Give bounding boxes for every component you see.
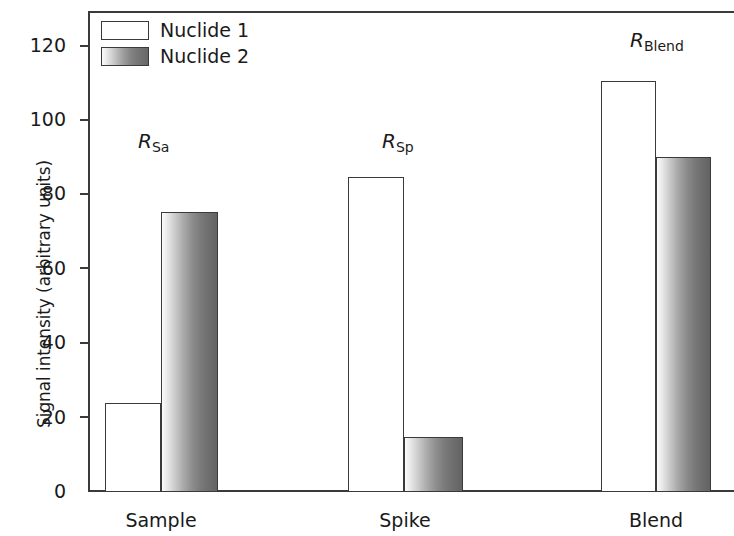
legend-swatch-nuclide2-icon: [101, 47, 149, 66]
annotation-r-sa-symbol: R: [138, 129, 152, 153]
annotation-r-sp-subscript: Sp: [396, 139, 414, 155]
legend-label-nuclide1: Nuclide 1: [160, 21, 249, 40]
legend: Nuclide 1 Nuclide 2: [101, 19, 271, 73]
legend-item-nuclide1[interactable]: Nuclide 1: [101, 19, 249, 42]
annotation-r-sp: RSp: [382, 131, 414, 154]
legend-item-nuclide2[interactable]: Nuclide 2: [101, 45, 249, 68]
annotation-r-blend: RBlend: [630, 30, 684, 53]
legend-label-nuclide2: Nuclide 2: [160, 47, 249, 66]
bar-blend-nuclide1[interactable]: [601, 81, 656, 492]
x-axis-labels: Sample Spike Blend: [0, 502, 720, 536]
annotation-r-sp-symbol: R: [382, 129, 396, 153]
bar-spike-nuclide1[interactable]: [348, 177, 404, 492]
x-label-blend: Blend: [596, 511, 716, 530]
annotation-r-blend-symbol: R: [630, 28, 644, 52]
annotation-r-blend-subscript: Blend: [644, 38, 684, 54]
annotation-r-sa: RSa: [138, 131, 169, 154]
x-label-spike: Spike: [345, 511, 465, 530]
bar-blend-nuclide2[interactable]: [656, 157, 711, 492]
bar-spike-nuclide2[interactable]: [404, 437, 463, 492]
legend-swatch-nuclide1-icon: [101, 21, 149, 40]
x-label-sample: Sample: [101, 511, 221, 530]
annotation-r-sa-subscript: Sa: [152, 139, 169, 155]
bar-sample-nuclide2[interactable]: [161, 212, 218, 492]
bar-sample-nuclide1[interactable]: [105, 403, 161, 492]
